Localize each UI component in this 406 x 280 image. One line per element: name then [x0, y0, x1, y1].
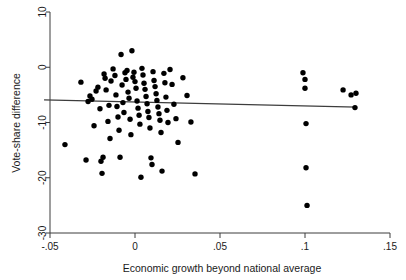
- data-point: [152, 84, 157, 89]
- data-point: [148, 155, 153, 160]
- data-point: [129, 48, 134, 53]
- data-point: [139, 66, 144, 71]
- data-point: [120, 100, 125, 105]
- y-axis: 100-10-20-30: [37, 6, 50, 240]
- data-point: [151, 78, 156, 83]
- data-point: [119, 82, 124, 87]
- y-axis-tick-label: -20: [37, 170, 48, 185]
- data-point: [127, 116, 132, 121]
- data-points: [62, 48, 358, 208]
- data-point: [141, 81, 146, 86]
- data-point: [184, 93, 189, 98]
- data-point: [108, 78, 113, 83]
- y-axis-tick-label: -30: [37, 225, 48, 240]
- data-point: [165, 120, 170, 125]
- data-point: [188, 119, 193, 124]
- data-point: [91, 123, 96, 128]
- data-point: [128, 132, 133, 137]
- data-point: [100, 155, 105, 160]
- data-point: [95, 84, 100, 89]
- data-point: [149, 162, 154, 167]
- data-point: [124, 68, 129, 73]
- data-point: [175, 140, 180, 145]
- data-point: [135, 105, 140, 110]
- data-point: [114, 104, 119, 109]
- data-point: [192, 171, 197, 176]
- data-point: [143, 94, 148, 99]
- data-point: [78, 79, 83, 84]
- data-point: [146, 115, 151, 120]
- data-point: [169, 82, 174, 87]
- data-point: [112, 73, 117, 78]
- data-point: [116, 128, 121, 133]
- data-point: [171, 102, 176, 107]
- data-point: [89, 97, 94, 102]
- data-point: [137, 121, 142, 126]
- data-point: [302, 86, 307, 91]
- data-point: [97, 106, 102, 111]
- data-point: [110, 66, 115, 71]
- x-axis-tick-label: 0: [132, 241, 138, 252]
- x-axis-tick-label: -.05: [41, 241, 59, 252]
- data-point: [302, 77, 307, 82]
- data-point: [156, 111, 161, 116]
- data-point: [348, 92, 353, 97]
- data-point: [138, 174, 143, 179]
- data-point: [125, 89, 130, 94]
- data-point: [132, 79, 137, 84]
- data-point: [300, 70, 305, 75]
- data-point: [173, 116, 178, 121]
- data-point: [131, 70, 136, 75]
- data-point: [154, 98, 159, 103]
- data-point: [126, 95, 131, 100]
- data-point: [304, 203, 309, 208]
- data-point: [115, 114, 120, 119]
- y-axis-tick-label: -10: [37, 115, 48, 130]
- data-point: [106, 103, 111, 108]
- data-point: [140, 72, 145, 77]
- data-point: [103, 87, 108, 92]
- data-point: [134, 98, 139, 103]
- data-point: [167, 67, 172, 72]
- data-point: [303, 121, 308, 126]
- data-point: [353, 91, 358, 96]
- data-point: [118, 52, 123, 57]
- data-point: [161, 71, 166, 76]
- x-axis-tick-label: .05: [213, 241, 227, 252]
- data-point: [113, 92, 118, 97]
- data-point: [162, 80, 167, 85]
- data-point: [136, 113, 141, 118]
- data-point: [164, 108, 169, 113]
- data-point: [142, 87, 147, 92]
- data-point: [352, 105, 357, 110]
- y-axis-tick-label: 10: [37, 6, 48, 18]
- data-point: [159, 168, 164, 173]
- data-point: [150, 69, 155, 74]
- data-point: [62, 142, 67, 147]
- data-point: [340, 87, 345, 92]
- data-point: [144, 101, 149, 106]
- data-point: [155, 104, 160, 109]
- data-point: [102, 76, 107, 81]
- y-axis-tick-label: 0: [37, 64, 48, 70]
- plot-canvas: Vote-share difference Economic growth be…: [0, 0, 406, 280]
- data-point: [121, 110, 126, 115]
- data-point: [163, 94, 168, 99]
- data-point: [158, 130, 163, 135]
- data-point: [303, 165, 308, 170]
- data-point: [107, 136, 112, 141]
- data-point: [83, 157, 88, 162]
- data-point: [153, 91, 158, 96]
- data-point: [157, 118, 162, 123]
- data-point: [123, 77, 128, 82]
- x-axis-tick-label: .15: [383, 241, 397, 252]
- y-axis-title: Vote-share difference: [10, 73, 22, 173]
- x-axis-title: Economic growth beyond national average: [123, 262, 322, 274]
- data-point: [147, 125, 152, 130]
- x-axis-tick-label: .1: [301, 241, 310, 252]
- data-point: [99, 171, 104, 176]
- y-axis-title-group: Vote-share difference: [10, 73, 22, 173]
- data-point: [133, 86, 138, 91]
- x-axis: -.050.05.1.15: [41, 233, 397, 252]
- scatter-plot-figure: Vote-share difference Economic growth be…: [0, 0, 406, 280]
